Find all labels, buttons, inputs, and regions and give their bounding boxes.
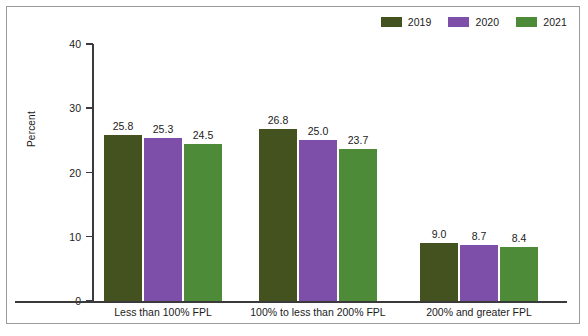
bar-value-label: 25.0	[299, 126, 337, 137]
bar-value-label: 26.8	[259, 115, 297, 126]
bars-layer: 25.825.324.526.825.023.79.08.78.4	[7, 7, 581, 301]
bar	[500, 247, 538, 301]
bar	[339, 149, 377, 301]
bar-value-label: 8.7	[460, 231, 498, 242]
bar	[144, 138, 182, 301]
x-axis-line	[15, 301, 567, 303]
bar	[104, 135, 142, 301]
chart-figure: 2019 2020 2021 Percent 010203040 25.825.…	[6, 6, 580, 324]
bar	[299, 140, 337, 301]
bar	[184, 144, 222, 301]
bar	[420, 243, 458, 301]
plot-area: Percent 010203040 25.825.324.526.825.023…	[7, 7, 581, 323]
bar-value-label: 23.7	[339, 135, 377, 146]
bar-value-label: 9.0	[420, 229, 458, 240]
bar-value-label: 24.5	[184, 130, 222, 141]
bar-value-label: 25.8	[104, 121, 142, 132]
bar	[460, 245, 498, 301]
bar-value-label: 25.3	[144, 124, 182, 135]
bar-value-label: 8.4	[500, 233, 538, 244]
x-axis-category-label: 200% and greater FPL	[379, 307, 579, 318]
bar	[259, 129, 297, 301]
